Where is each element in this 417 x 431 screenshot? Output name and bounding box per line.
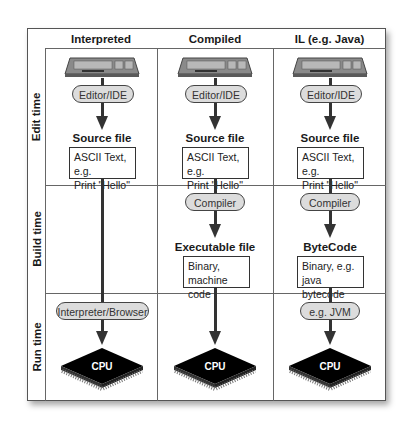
executable-file-box: Binary, machine code xyxy=(183,256,250,288)
column-header-interpreted: Interpreted xyxy=(45,30,157,48)
column-divider xyxy=(273,48,274,401)
arrow-down-icon xyxy=(209,331,221,345)
keyboard-icon xyxy=(177,57,253,79)
source-file-title-compiled: Source file xyxy=(170,132,260,144)
compiler-pill-il: Compiler xyxy=(300,193,360,211)
flow-line xyxy=(101,179,104,303)
source-file-title-il: Source file xyxy=(285,132,375,144)
compiler-pill-compiled: Compiler xyxy=(185,193,245,211)
flow-arrow-stem xyxy=(329,103,332,117)
flow-arrow-stem xyxy=(214,288,217,332)
column-header-compiled: Compiled xyxy=(157,30,273,48)
keyboard-icon xyxy=(64,57,140,79)
editor-ide-pill-interpreted: Editor/IDE xyxy=(72,85,134,103)
column-divider xyxy=(157,48,158,401)
row-header-edit-time: Edit time xyxy=(28,48,45,185)
bytecode-title: ByteCode xyxy=(285,241,375,253)
source-file-title-interpreted: Source file xyxy=(57,132,147,144)
arrow-down-icon xyxy=(209,116,221,130)
svg-text:CPU: CPU xyxy=(204,361,225,372)
bytecode-box: Binary, e.g. java bytecode xyxy=(297,256,364,288)
cpu-chip-icon: CPU xyxy=(287,346,373,394)
arrow-down-icon xyxy=(324,331,336,345)
flow-line xyxy=(214,179,217,194)
row-header-run-time: Run time xyxy=(28,293,45,401)
flow-arrow-stem xyxy=(214,103,217,117)
source-file-box-il: ASCII Text, e.g. Print "Hello" xyxy=(297,147,364,179)
jvm-pill: e.g. JVM xyxy=(300,302,360,320)
flow-arrow-stem xyxy=(101,103,104,117)
cpu-chip-icon: CPU xyxy=(172,346,258,394)
cpu-chip-icon: CPU xyxy=(59,346,145,394)
arrow-down-icon xyxy=(209,224,221,238)
source-file-box-interpreted: ASCII Text, e.g. Print "Hello" xyxy=(69,147,136,179)
editor-ide-pill-il: Editor/IDE xyxy=(300,85,362,103)
column-header-il: IL (e.g. Java) xyxy=(273,30,386,48)
flow-arrow-stem xyxy=(329,211,332,225)
executable-file-title: Executable file xyxy=(160,241,270,253)
arrow-down-icon xyxy=(324,224,336,238)
arrow-down-icon xyxy=(324,116,336,130)
arrow-down-icon xyxy=(96,331,108,345)
source-file-box-compiled: ASCII Text, e.g. Print "Hello" xyxy=(182,147,249,179)
flow-line xyxy=(329,179,332,194)
editor-ide-pill-compiled: Editor/IDE xyxy=(185,85,247,103)
svg-text:CPU: CPU xyxy=(319,361,340,372)
interpreter-browser-pill: Interpreter/Browser xyxy=(56,302,149,320)
row-header-build-time: Build time xyxy=(28,185,45,293)
flow-line xyxy=(329,288,332,303)
arrow-down-icon xyxy=(96,116,108,130)
svg-text:CPU: CPU xyxy=(91,361,112,372)
flow-arrow-stem xyxy=(214,211,217,225)
keyboard-icon xyxy=(292,57,368,79)
